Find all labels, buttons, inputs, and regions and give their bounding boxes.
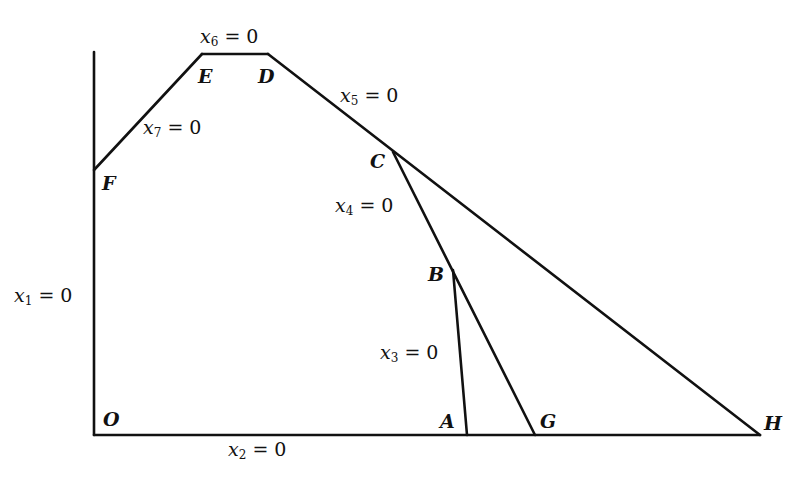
constraint-label-x7: x7 = 0 xyxy=(143,118,201,139)
vertex-label-H: H xyxy=(764,414,782,433)
vertex-label-F: F xyxy=(102,174,116,193)
constraint-label-x3: x3 = 0 xyxy=(380,343,438,364)
vertex-label-A: A xyxy=(440,412,455,431)
vertex-label-O: O xyxy=(103,410,120,429)
edge-F-E xyxy=(94,54,202,170)
vertex-label-D: D xyxy=(258,67,274,86)
constraint-label-x1: x1 = 0 xyxy=(14,286,72,307)
constraint-label-x4: x4 = 0 xyxy=(335,196,393,217)
vertex-label-B: B xyxy=(428,265,444,284)
constraint-label-x2: x2 = 0 xyxy=(228,440,286,461)
constraint-label-x6: x6 = 0 xyxy=(200,27,258,48)
vertex-label-C: C xyxy=(370,152,385,171)
vertex-label-G: G xyxy=(540,412,556,431)
constraint-label-x5: x5 = 0 xyxy=(340,86,398,107)
vertex-label-E: E xyxy=(198,67,212,86)
edge-D-H xyxy=(268,54,760,435)
